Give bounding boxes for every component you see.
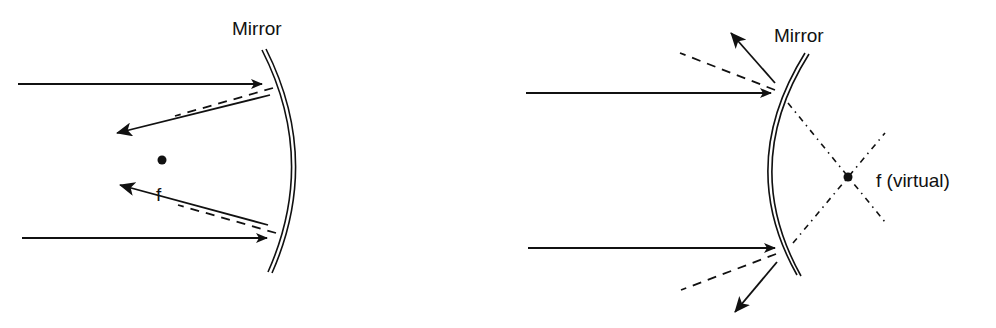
convex-mirror-diagram: Mirror f (virtual) [526, 25, 950, 312]
concave-mirror [262, 49, 296, 273]
virtual-extension-top [788, 103, 885, 222]
virtual-focal-point [844, 173, 853, 182]
normal-dashed-top [175, 88, 273, 116]
mirror-diagrams: Mirror f Mirror f (virtual) [0, 0, 996, 328]
mirror-label-right: Mirror [774, 25, 824, 46]
normal-dashed-top [680, 53, 775, 90]
concave-mirror-diagram: Mirror f [18, 18, 296, 273]
mirror-label-left: Mirror [232, 18, 282, 39]
normal-dashed-bottom [681, 254, 776, 290]
virtual-focal-label: f (virtual) [876, 170, 950, 191]
reflected-ray-top [117, 95, 270, 133]
reflected-ray-bottom [120, 185, 268, 225]
focal-label: f [156, 184, 162, 205]
virtual-extension-bottom [793, 133, 885, 243]
focal-point [158, 156, 167, 165]
normal-dashed-bottom [178, 205, 276, 233]
convex-mirror [768, 53, 809, 276]
reflected-ray-bottom [735, 262, 777, 312]
